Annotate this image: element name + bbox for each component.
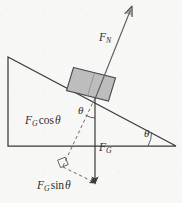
- angle-arc-at-block: [86, 115, 95, 118]
- label-fgsin-function: sin: [51, 179, 64, 191]
- label-angle-at-base: θ: [144, 128, 149, 139]
- diagram-canvas: [0, 0, 182, 203]
- label-fgsin-variable: θ: [65, 179, 71, 191]
- label-gravity-perpendicular: FG cos θ: [25, 115, 61, 128]
- angle-arc-block-path: [86, 115, 95, 118]
- incline-triangle: [8, 57, 176, 146]
- label-angle-at-block: θ: [78, 105, 83, 116]
- label-fg-subscript: G: [106, 146, 112, 155]
- label-fg-symbol: F: [99, 141, 106, 153]
- force-diagram-figure: FN FG FG cos θ FG sin θ θ θ: [0, 0, 182, 203]
- label-fgcos-variable: θ: [55, 114, 61, 126]
- label-fgcos-symbol: F: [25, 114, 32, 126]
- block-on-incline: [67, 68, 116, 102]
- label-gravity-parallel: FG sin θ: [37, 180, 71, 193]
- label-fgsin-symbol: F: [37, 179, 44, 191]
- label-fn-subscript: N: [106, 36, 111, 45]
- label-fn-symbol: F: [99, 31, 106, 43]
- incline-triangle-outline: [8, 57, 176, 146]
- label-normal-force: FN: [99, 32, 111, 45]
- label-gravity-force: FG: [99, 142, 112, 155]
- label-fgcos-function: cos: [39, 114, 54, 126]
